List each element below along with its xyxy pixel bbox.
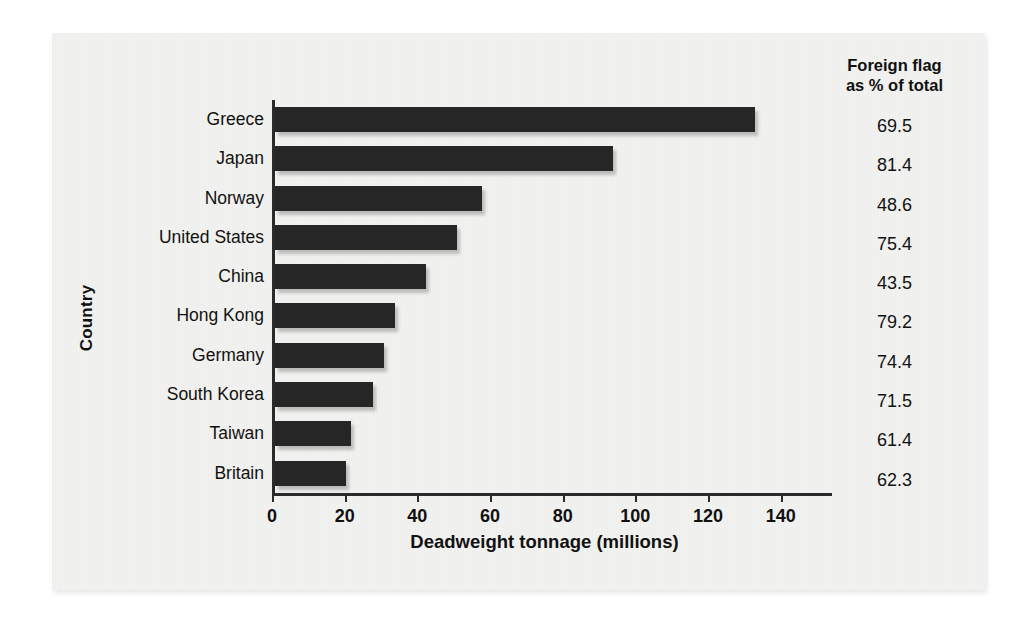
x-axis-title: Deadweight tonnage (millions) [272,531,817,553]
foreign-flag-column: Foreign flag as % of total 69.581.448.67… [812,55,977,500]
foreign-flag-percent: 71.5 [812,382,977,421]
x-axis-tick-label: 0 [267,506,277,527]
bar-row [272,218,817,257]
x-axis-tick [345,493,347,502]
x-axis-tick [781,493,783,502]
bar-row [272,454,817,493]
bar [275,264,426,289]
foreign-flag-column-header: Foreign flag as % of total [812,55,977,95]
category-label: Hong Kong [112,296,264,335]
bar-row [272,100,817,139]
foreign-flag-percent: 74.4 [812,343,977,382]
x-axis-ticks: 020406080100120140 [272,493,832,533]
bar [275,303,395,328]
x-axis-tick-label: 100 [620,506,650,527]
foreign-flag-value-list: 69.581.448.675.443.579.274.471.561.462.3 [812,107,977,500]
category-label: Germany [112,336,264,375]
bar [275,146,613,171]
bar-row [272,296,817,335]
category-label: Norway [112,179,264,218]
category-label: China [112,257,264,296]
category-label: Japan [112,139,264,178]
bar [275,461,346,486]
bar [275,382,373,407]
x-axis-tick [563,493,565,502]
bar-row [272,179,817,218]
x-axis-tick-label: 120 [693,506,723,527]
y-axis-title: Country [77,258,97,378]
category-label-column: GreeceJapanNorwayUnited StatesChinaHong … [112,100,264,493]
x-axis-tick-label: 80 [553,506,573,527]
foreign-flag-percent: 62.3 [812,461,977,500]
x-axis-tick [272,493,274,502]
bar [275,107,755,132]
foreign-flag-percent: 61.4 [812,421,977,460]
category-label: Britain [112,454,264,493]
bar-row [272,375,817,414]
foreign-flag-percent: 48.6 [812,186,977,225]
foreign-flag-percent: 75.4 [812,225,977,264]
bar-row [272,257,817,296]
x-axis-tick-label: 20 [335,506,355,527]
plot-area [272,100,817,493]
x-axis-tick [635,493,637,502]
foreign-flag-percent: 79.2 [812,303,977,342]
x-axis-tick [417,493,419,502]
category-label: South Korea [112,375,264,414]
foreign-flag-percent: 81.4 [812,146,977,185]
x-axis-tick [490,493,492,502]
bar [275,421,351,446]
foreign-flag-percent: 43.5 [812,264,977,303]
bar-row [272,139,817,178]
x-axis-tick-label: 60 [480,506,500,527]
bar-chart-figure: Country GreeceJapanNorwayUnited StatesCh… [52,33,985,590]
x-axis-tick-label: 140 [766,506,796,527]
category-label: Greece [112,100,264,139]
chart-card: Country GreeceJapanNorwayUnited StatesCh… [52,33,985,590]
category-label: United States [112,218,264,257]
bar-row [272,336,817,375]
bar-row [272,414,817,453]
bar [275,343,384,368]
foreign-flag-percent: 69.5 [812,107,977,146]
x-axis-tick [708,493,710,502]
bar [275,186,482,211]
bar [275,225,457,250]
category-label: Taiwan [112,414,264,453]
x-axis-tick-label: 40 [407,506,427,527]
